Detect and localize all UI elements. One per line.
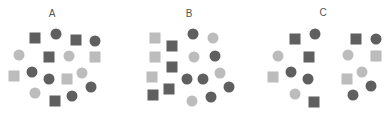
dark-circle-icon [86, 82, 97, 93]
light-circle-icon [14, 50, 25, 61]
dark-square-icon [290, 34, 301, 45]
panel-label-a: A [49, 9, 56, 19]
dark-circle-icon [348, 90, 359, 101]
dark-square-icon [30, 33, 41, 44]
dark-circle-icon [198, 74, 209, 85]
light-circle-icon [208, 33, 219, 44]
light-circle-icon [357, 67, 368, 78]
dark-circle-icon [67, 91, 78, 102]
light-circle-icon [30, 88, 41, 99]
light-square-icon [147, 72, 158, 83]
dark-circle-icon [366, 81, 377, 92]
dark-circle-icon [371, 34, 382, 45]
light-circle-icon [77, 68, 88, 79]
light-square-icon [90, 52, 101, 63]
dark-square-icon [50, 96, 61, 107]
light-circle-icon [273, 51, 284, 62]
dark-circle-icon [188, 29, 199, 40]
dark-square-icon [164, 84, 175, 95]
dark-square-icon [44, 52, 55, 63]
dark-circle-icon [310, 29, 321, 40]
light-circle-icon [64, 51, 75, 62]
light-circle-icon [187, 96, 198, 107]
dark-square-icon [309, 97, 320, 108]
panel-label-c: C [319, 8, 326, 18]
dark-circle-icon [206, 92, 217, 103]
light-square-icon [9, 71, 20, 82]
dark-circle-icon [303, 74, 314, 85]
light-square-icon [342, 74, 353, 85]
light-circle-icon [343, 50, 354, 61]
dark-square-icon [351, 34, 362, 45]
dark-circle-icon [224, 82, 235, 93]
dark-circle-icon [44, 74, 55, 85]
dark-circle-icon [90, 36, 101, 47]
dark-square-icon [148, 90, 159, 101]
light-circle-icon [189, 52, 200, 63]
dark-square-icon [304, 52, 315, 63]
light-square-icon [150, 33, 161, 44]
grouping-diagram: A B C [0, 0, 391, 114]
dark-circle-icon [27, 67, 38, 78]
light-square-icon [150, 52, 161, 63]
dark-circle-icon [286, 67, 297, 78]
panel-label-b: B [186, 9, 193, 19]
dark-circle-icon [51, 29, 62, 40]
dark-square-icon [167, 41, 178, 52]
light-square-icon [62, 74, 73, 85]
light-circle-icon [290, 89, 301, 100]
dark-square-icon [71, 35, 82, 46]
dark-circle-icon [182, 74, 193, 85]
light-square-icon [371, 51, 382, 62]
dark-circle-icon [210, 51, 221, 62]
light-square-icon [268, 72, 279, 83]
light-circle-icon [215, 68, 226, 79]
dark-square-icon [167, 62, 178, 73]
